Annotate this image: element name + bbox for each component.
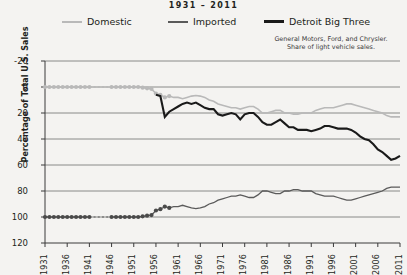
y-tick-label: 40: [2, 135, 28, 143]
marker-domestic: [123, 85, 127, 89]
marker-imported: [123, 215, 127, 219]
x-tick-label: 1956: [150, 254, 159, 275]
annotation-line-2: Share of light vehicle sales.: [256, 44, 406, 52]
line-domestic: [112, 87, 400, 117]
marker-domestic: [127, 85, 131, 89]
marker-imported: [149, 213, 153, 217]
chart-title: 1931 – 2011: [0, 1, 407, 10]
marker-domestic: [149, 87, 153, 91]
marker-imported: [83, 215, 87, 219]
legend-item-detroit[interactable]: Detroit Big Three: [264, 16, 370, 27]
x-tick-label: 2006: [372, 254, 381, 275]
y-axis-tick-labels: 120100806040200-20: [2, 0, 28, 272]
legend-label-domestic: Domestic: [87, 16, 132, 27]
marker-imported: [56, 215, 60, 219]
marker-imported: [163, 205, 167, 209]
legend-swatch-domestic: [62, 21, 82, 23]
x-tick-label: 1936: [62, 254, 71, 275]
y-tick-label: 80: [2, 187, 28, 195]
marker-imported: [145, 214, 149, 218]
marker-imported: [114, 215, 118, 219]
legend-label-detroit: Detroit Big Three: [289, 16, 370, 27]
marker-domestic: [78, 85, 82, 89]
y-tick-label: 100: [2, 213, 28, 221]
legend-label-imported: Imported: [193, 16, 236, 27]
marker-imported: [127, 215, 131, 219]
x-tick-label: 1946: [106, 254, 115, 275]
x-tick-label: 1981: [261, 254, 270, 275]
marker-domestic: [56, 85, 60, 89]
x-tick-label: 1986: [284, 254, 293, 275]
marker-imported: [47, 215, 51, 219]
marker-imported: [167, 206, 171, 210]
marker-domestic: [132, 85, 136, 89]
x-tick-label: 1971: [217, 254, 226, 275]
legend-item-imported[interactable]: Imported: [168, 16, 236, 27]
y-tick-label: 0: [2, 83, 28, 91]
marker-imported: [109, 215, 113, 219]
marker-domestic: [118, 85, 122, 89]
marker-imported: [141, 214, 145, 218]
marker-imported: [61, 215, 65, 219]
y-tick-label: 60: [2, 161, 28, 169]
marker-domestic: [109, 85, 113, 89]
marker-domestic: [52, 85, 56, 89]
legend-item-domestic[interactable]: Domestic: [62, 16, 132, 27]
legend-swatch-imported: [168, 21, 188, 23]
marker-domestic: [83, 85, 87, 89]
chart-annotation: General Motors, Ford, and Chrysler. Shar…: [256, 36, 406, 51]
marker-imported: [74, 215, 78, 219]
marker-imported: [70, 215, 74, 219]
marker-domestic: [141, 86, 145, 90]
x-tick-label: 1941: [84, 254, 93, 275]
x-tick-label: 1976: [239, 254, 248, 275]
chart-legend: Domestic Imported Detroit Big Three: [0, 16, 407, 30]
marker-domestic: [136, 85, 140, 89]
x-tick-label: 1991: [306, 254, 315, 275]
marker-domestic: [74, 85, 78, 89]
marker-domestic: [47, 85, 51, 89]
x-axis-tick-labels: 1931193619411946195119561961196619711976…: [0, 246, 407, 272]
marker-domestic: [61, 85, 65, 89]
x-tick-label: 1966: [195, 254, 204, 275]
x-tick-label: 1961: [173, 254, 182, 275]
marker-imported: [154, 208, 158, 212]
marker-domestic: [114, 85, 118, 89]
y-tick-label: -20: [2, 57, 28, 65]
marker-imported: [52, 215, 56, 219]
marker-imported: [87, 215, 91, 219]
marker-imported: [158, 207, 162, 211]
marker-imported: [132, 215, 136, 219]
legend-swatch-detroit: [264, 20, 284, 23]
line-detroit-big-three: [156, 95, 400, 160]
x-tick-label: 2011: [395, 254, 404, 275]
marker-domestic: [163, 95, 167, 99]
x-tick-label: 1931: [40, 254, 49, 275]
marker-domestic: [65, 85, 69, 89]
line-imported: [112, 187, 400, 217]
marker-imported: [43, 215, 47, 219]
marker-domestic: [43, 85, 47, 89]
x-tick-label: 2001: [350, 254, 359, 275]
x-tick-label: 1951: [128, 254, 137, 275]
marker-imported: [78, 215, 82, 219]
y-tick-label: 20: [2, 109, 28, 117]
marker-imported: [65, 215, 69, 219]
marker-imported: [118, 215, 122, 219]
marker-domestic: [167, 94, 171, 98]
x-tick-label: 1996: [328, 254, 337, 275]
marker-domestic: [145, 86, 149, 90]
marker-imported: [136, 215, 140, 219]
marker-domestic: [70, 85, 74, 89]
marker-domestic: [87, 85, 91, 89]
